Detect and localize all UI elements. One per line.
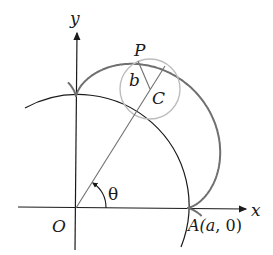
epicycloid-diagram: y x O P b C θ A(a, 0) — [0, 0, 273, 255]
angle-theta-label: θ — [108, 184, 118, 204]
point-P-label: P — [133, 40, 146, 60]
center-C-label: C — [152, 88, 165, 108]
point-A-label: A(a, 0) — [186, 216, 242, 235]
y-axis-label: y — [69, 8, 80, 28]
epicycloid-curve — [68, 64, 220, 216]
x-axis-label: x — [251, 200, 261, 220]
x-axis — [18, 207, 246, 209]
radius-b-label: b — [129, 70, 140, 90]
fixed-circle — [25, 95, 189, 247]
y-axis — [75, 33, 77, 250]
origin-label: O — [52, 216, 66, 236]
angle-theta-arc — [93, 183, 106, 208]
